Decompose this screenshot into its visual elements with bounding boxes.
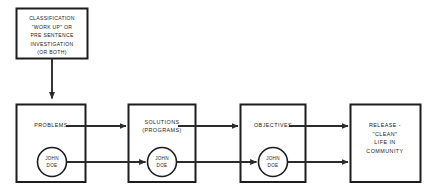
release-line-1: RELEASE - [369, 122, 401, 128]
objectives-circle-line-1: JOHN [266, 156, 280, 161]
solutions-line-1: SOLUTIONS [144, 119, 179, 125]
problems-circle-line-2: DOE [47, 163, 58, 168]
objectives-label: OBJECTIVES [254, 122, 292, 128]
release-line-4: COMMUNITY [366, 148, 403, 154]
classification-line-2: "WORK UP" OR [32, 24, 73, 30]
solutions-circle-line-2: DOE [157, 163, 168, 168]
problems-label: PROBLEMS [34, 122, 68, 128]
release-line-2: "CLEAN" [373, 131, 398, 137]
classification-line-5: (OR BOTH) [37, 49, 66, 55]
diagram-canvas: CLASSIFICATION "WORK UP" OR PRE SENTENCE… [0, 0, 429, 195]
flowchart-svg: CLASSIFICATION "WORK UP" OR PRE SENTENCE… [0, 0, 429, 195]
problems-circle-line-1: JOHN [45, 156, 59, 161]
classification-line-3: PRE SENTENCE [30, 32, 74, 38]
classification-line-4: INVESTIGATION [31, 41, 74, 47]
solutions-line-2: (PROGRAMS) [142, 127, 182, 133]
solutions-circle-line-1: JOHN [155, 156, 169, 161]
objectives-circle-line-2: DOE [268, 163, 279, 168]
release-line-3: LIFE IN [374, 139, 395, 145]
classification-line-1: CLASSIFICATION [29, 15, 75, 21]
